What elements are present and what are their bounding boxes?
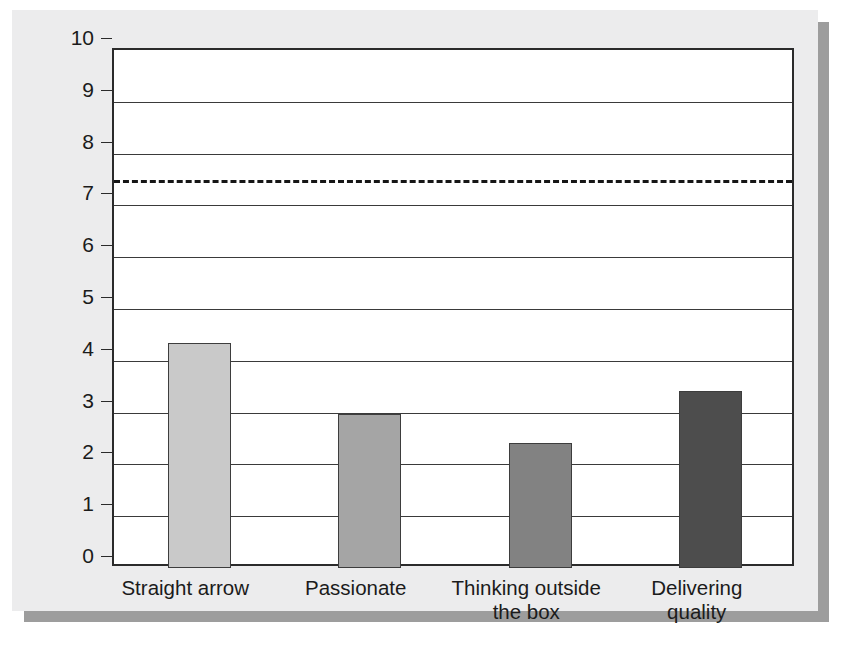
y-tick-0 (101, 556, 112, 557)
bar (679, 391, 742, 568)
y-tick-2 (101, 452, 112, 453)
bar (509, 443, 572, 568)
y-axis-label: 9 (34, 79, 94, 100)
y-axis-label: 2 (34, 441, 94, 462)
y-axis-label: 8 (34, 131, 94, 152)
y-axis-label: 3 (34, 390, 94, 411)
y-tick-1 (101, 504, 112, 505)
y-tick-9 (101, 90, 112, 91)
gridline-y-7 (114, 205, 792, 206)
gridline-y-9 (114, 102, 792, 103)
y-axis-label: 1 (34, 493, 94, 514)
card-shadow-right (818, 22, 829, 622)
x-axis-label-line: Passionate (271, 576, 442, 600)
x-axis-label-line: the box (441, 600, 612, 624)
y-axis-label: 4 (34, 338, 94, 359)
y-tick-8 (101, 142, 112, 143)
y-axis-label: 0 (34, 545, 94, 566)
x-axis-label-line: Thinking outside (441, 576, 612, 600)
x-axis-label: Thinking outsidethe box (441, 576, 612, 624)
y-axis-label: 7 (34, 182, 94, 203)
x-axis-label: Passionate (271, 576, 442, 600)
plot-area (112, 48, 794, 566)
chart-card: 012345678910 Straight arrowPassionateThi… (12, 10, 818, 611)
y-axis-label: 6 (34, 234, 94, 255)
x-axis-label-line: quality (612, 600, 783, 624)
y-tick-10 (101, 38, 112, 39)
y-tick-4 (101, 349, 112, 350)
bar (168, 343, 231, 568)
y-tick-7 (101, 193, 112, 194)
y-tick-5 (101, 297, 112, 298)
y-axis-label: 5 (34, 286, 94, 307)
x-axis-label-line: Delivering (612, 576, 783, 600)
benchmark-dashed-line (114, 180, 792, 183)
gridline-y-5 (114, 309, 792, 310)
y-axis-label: 10 (34, 27, 94, 48)
bar-chart-figure: 012345678910 Straight arrowPassionateThi… (0, 0, 860, 655)
gridline-y-8 (114, 154, 792, 155)
y-tick-3 (101, 401, 112, 402)
plot-inner (114, 50, 792, 564)
gridline-y-6 (114, 257, 792, 258)
x-axis-label: Deliveringquality (612, 576, 783, 624)
x-axis-label-line: Straight arrow (100, 576, 271, 600)
y-tick-6 (101, 245, 112, 246)
bar (338, 414, 401, 568)
x-axis-label: Straight arrow (100, 576, 271, 600)
